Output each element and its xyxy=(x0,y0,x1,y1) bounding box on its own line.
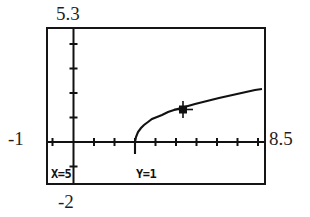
window-ymin-label: -2 xyxy=(58,192,74,211)
calculator-screen-frame: X=5 Y=1 xyxy=(46,27,266,185)
window-ymax-label: 5.3 xyxy=(56,4,80,23)
calculator-screenshot: 5.3 -1 8.5 -2 xyxy=(0,0,310,217)
function-curve xyxy=(135,89,262,154)
trace-cursor-icon xyxy=(174,101,193,118)
trace-x-readout: X=5 xyxy=(51,168,71,180)
graph-svg xyxy=(48,29,264,183)
trace-y-readout: Y=1 xyxy=(136,168,156,180)
window-xmax-label: 8.5 xyxy=(269,129,293,148)
window-xmin-label: -1 xyxy=(8,129,24,148)
graph-plot-area xyxy=(48,29,264,183)
